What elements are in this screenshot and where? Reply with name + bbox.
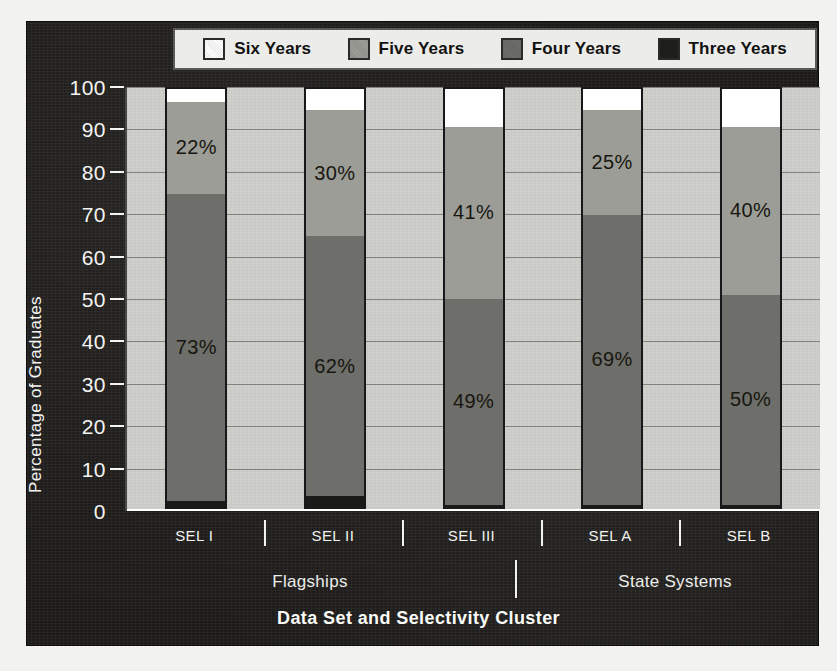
group-separator — [515, 560, 517, 598]
legend-swatch-six-years — [203, 38, 225, 60]
plot-area: 22%73%30%62%41%49%25%69%40%50% — [125, 87, 820, 511]
bar-sel-iii[interactable]: 41%49% — [443, 87, 505, 511]
bar-segment-six-years — [722, 89, 780, 127]
y-tick-mark — [110, 468, 124, 470]
bar-segment-value: 62% — [314, 355, 355, 378]
bar-segment-six-years — [445, 89, 503, 127]
chart-legend: Six Years Five Years Four Years Three Ye… — [173, 28, 817, 70]
bar-segment-three-years — [306, 496, 364, 509]
bar-sel-a[interactable]: 25%69% — [581, 87, 643, 511]
bar-segment-four-years: 62% — [306, 236, 364, 496]
chart-page: Six Years Five Years Four Years Three Ye… — [0, 0, 837, 671]
y-tick-mark — [110, 86, 124, 88]
y-tick-mark — [110, 213, 124, 215]
y-tick-label: 80 — [34, 161, 106, 182]
bar-segment-six-years — [306, 89, 364, 110]
bar-segment-five-years: 41% — [445, 127, 503, 299]
legend-label-six-years: Six Years — [234, 39, 311, 59]
x-tick-label-sel-a: SEL A — [540, 527, 680, 544]
bar-segment-five-years: 40% — [722, 127, 780, 295]
x-axis-baseline — [127, 509, 820, 511]
y-tick-label: 30 — [34, 373, 106, 394]
bar-segment-four-years: 49% — [445, 299, 503, 505]
bar-segment-five-years: 25% — [583, 110, 641, 215]
x-tick-label-sel-b: SEL B — [679, 527, 819, 544]
y-tick-mark — [110, 383, 124, 385]
legend-swatch-four-years — [501, 38, 523, 60]
x-tick-label-sel-ii: SEL II — [263, 527, 403, 544]
group-label-flagships: Flagships — [160, 572, 460, 592]
bar-segment-six-years — [583, 89, 641, 110]
legend-item-five-years[interactable]: Five Years — [348, 38, 465, 60]
bar-segment-four-years: 73% — [167, 194, 225, 501]
legend-label-three-years: Three Years — [689, 39, 787, 59]
y-tick-label: 90 — [34, 119, 106, 140]
legend-label-four-years: Four Years — [532, 39, 622, 59]
x-tick-label-sel-iii: SEL III — [402, 527, 542, 544]
y-tick-label: 100 — [34, 77, 106, 98]
bar-segment-five-years: 30% — [306, 110, 364, 236]
y-tick-label: 40 — [34, 331, 106, 352]
bar-segment-four-years: 50% — [722, 295, 780, 505]
legend-item-three-years[interactable]: Three Years — [658, 38, 787, 60]
legend-swatch-five-years — [348, 38, 370, 60]
y-tick-label: 10 — [34, 458, 106, 479]
bar-sel-b[interactable]: 40%50% — [720, 87, 782, 511]
y-tick-mark — [110, 256, 124, 258]
y-tick-mark — [110, 171, 124, 173]
y-tick-mark — [110, 340, 124, 342]
legend-label-five-years: Five Years — [379, 39, 465, 59]
bar-segment-value: 25% — [591, 151, 632, 174]
bar-segment-five-years: 22% — [167, 102, 225, 194]
y-tick-label: 70 — [34, 204, 106, 225]
y-tick-mark — [110, 298, 124, 300]
bar-sel-i[interactable]: 22%73% — [165, 87, 227, 511]
bar-segment-value: 30% — [314, 162, 355, 185]
y-tick-mark — [110, 128, 124, 130]
y-tick-label: 50 — [34, 289, 106, 310]
bar-segment-value: 22% — [176, 136, 217, 159]
bar-segment-value: 50% — [730, 388, 771, 411]
bar-segment-three-years — [167, 501, 225, 509]
y-tick-label: 20 — [34, 416, 106, 437]
bar-segment-value: 40% — [730, 199, 771, 222]
legend-swatch-three-years — [658, 38, 680, 60]
x-tick-label-sel-i: SEL I — [124, 527, 264, 544]
x-axis-title: Data Set and Selectivity Cluster — [0, 608, 837, 629]
group-label-state-systems: State Systems — [545, 572, 805, 592]
legend-item-six-years[interactable]: Six Years — [203, 38, 311, 60]
y-tick-mark — [110, 425, 124, 427]
y-tick-label: 60 — [34, 246, 106, 267]
bar-segment-value: 73% — [176, 336, 217, 359]
bar-segment-value: 69% — [591, 348, 632, 371]
bar-segment-four-years: 69% — [583, 215, 641, 505]
bar-segment-value: 41% — [453, 201, 494, 224]
legend-item-four-years[interactable]: Four Years — [501, 38, 622, 60]
bar-segment-six-years — [167, 89, 225, 102]
bar-sel-ii[interactable]: 30%62% — [304, 87, 366, 511]
y-tick-label: 0 — [34, 501, 106, 522]
bar-segment-value: 49% — [453, 390, 494, 413]
